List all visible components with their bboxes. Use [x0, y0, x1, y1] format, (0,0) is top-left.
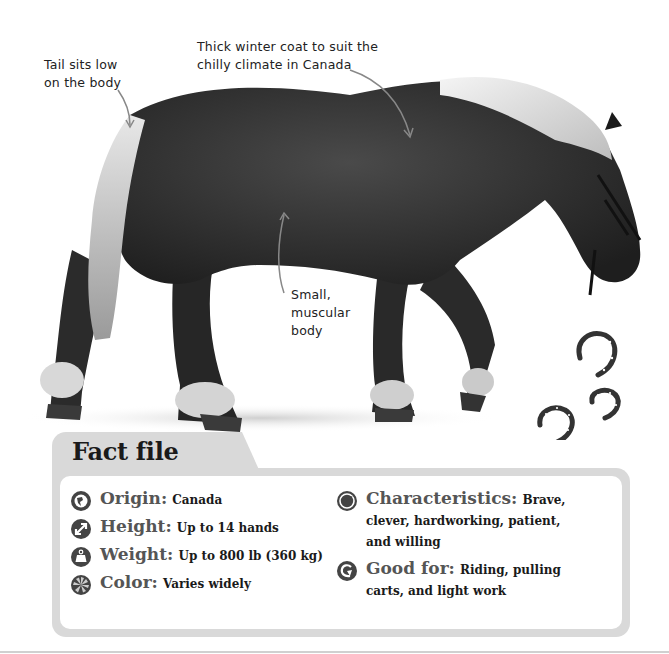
fact-file-tab-slope — [230, 432, 260, 472]
fact-height: Height: Up to 14 hands — [70, 516, 340, 538]
annotation-line: on the body — [44, 74, 121, 92]
fact-file-border: Origin: Canada Height: Up to 14 hands — [52, 468, 630, 637]
globe-icon — [70, 490, 92, 512]
fact-file-card: Fact file Origin: Canada — [52, 432, 630, 637]
fact-file-title: Fact file — [72, 437, 178, 466]
annotation-line: Tail sits low — [44, 56, 121, 74]
fact-column-right: Characteristics: Brave, clever, hardwork… — [336, 488, 586, 607]
fact-weight: Weight: Up to 800 lb (360 kg) — [70, 544, 340, 566]
fact-value: Canada — [172, 493, 222, 507]
fact-value: Up to 800 lb (360 kg) — [178, 549, 322, 563]
annotation-coat: Thick winter coat to suit the chilly cli… — [197, 38, 378, 74]
fact-good-for: Good for: Riding, pulling carts, and lig… — [336, 558, 586, 601]
horseshoe-icon — [336, 560, 358, 582]
fact-file-body: Origin: Canada Height: Up to 14 hands — [60, 476, 622, 629]
horseshoe-decoration — [540, 334, 618, 440]
annotation-line: Small, — [291, 286, 350, 304]
height-arrows-icon — [70, 518, 92, 540]
characteristics-icon — [336, 490, 358, 512]
fact-origin: Origin: Canada — [70, 488, 340, 510]
weight-icon — [70, 546, 92, 568]
annotation-line: body — [291, 322, 350, 340]
fact-value: Varies widely — [163, 577, 251, 591]
ground-shadow — [20, 404, 500, 432]
fact-characteristics: Characteristics: Brave, clever, hardwork… — [336, 488, 586, 552]
fact-label: Color: — [100, 572, 158, 592]
fact-column-left: Origin: Canada Height: Up to 14 hands — [70, 488, 340, 600]
annotation-line: chilly climate in Canada — [197, 56, 378, 74]
annotation-tail: Tail sits low on the body — [44, 56, 121, 92]
fact-label: Origin: — [100, 488, 167, 508]
color-palette-icon — [70, 574, 92, 596]
page-divider — [0, 651, 669, 653]
fact-label: Characteristics: — [366, 488, 517, 508]
fact-value: Up to 14 hands — [177, 521, 279, 535]
fact-label: Height: — [100, 516, 172, 536]
annotation-line: Thick winter coat to suit the — [197, 38, 378, 56]
fact-color: Color: Varies widely — [70, 572, 340, 594]
annotation-line: muscular — [291, 304, 350, 322]
fact-label: Good for: — [366, 558, 455, 578]
fact-label: Weight: — [100, 544, 173, 564]
annotation-body: Small, muscular body — [291, 286, 350, 340]
